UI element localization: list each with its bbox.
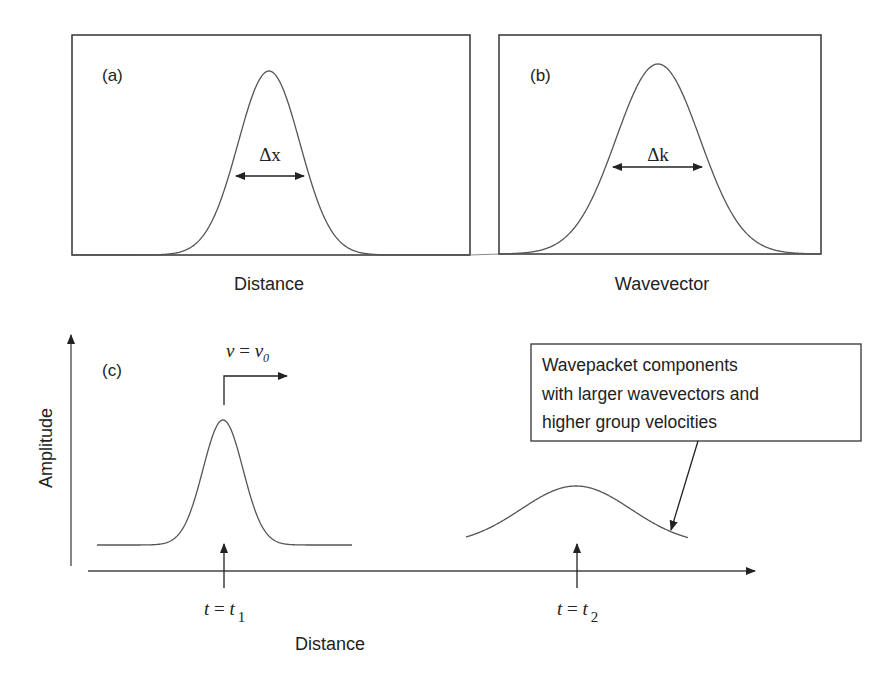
velocity-arrow [224, 376, 287, 405]
panel-c-label: (c) [102, 361, 122, 380]
callout-pointer-arrow [671, 441, 698, 530]
x-axis-label: Distance [295, 634, 365, 654]
pulse-t1-curve [97, 420, 352, 545]
pulse-t2-curve [466, 486, 688, 538]
velocity-label: v = v0 [226, 340, 269, 365]
panel-a-xlabel: Distance [234, 274, 304, 294]
panel-a-label: (a) [102, 66, 123, 85]
y-axis-label: Amplitude [36, 408, 56, 488]
delta-k-label: Δk [647, 144, 669, 165]
wavepacket-figure: Δx (a) Distance Δk (b) Wavevector Amplit… [0, 0, 896, 682]
panel-a: Δx (a) Distance [72, 35, 470, 294]
baseline-connector [470, 254, 499, 255]
panel-c: Amplitude Distance (c) v = v0 t = t1 t =… [36, 335, 861, 654]
panel-b: Δk (b) Wavevector [499, 35, 821, 294]
delta-x-label: Δx [259, 144, 281, 165]
t2-label: t = t2 [557, 598, 598, 625]
t1-label: t = t1 [204, 598, 245, 625]
panel-b-xlabel: Wavevector [615, 274, 709, 294]
panel-b-label: (b) [530, 66, 551, 85]
